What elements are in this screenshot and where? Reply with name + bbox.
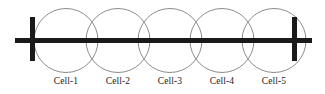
- cell-label-2: Cell-2: [106, 76, 130, 86]
- figure-root: Cell-1Cell-2Cell-3Cell-4Cell-5: [0, 0, 325, 94]
- cell-label-4: Cell-4: [210, 76, 234, 86]
- cell-labels-group: Cell-1Cell-2Cell-3Cell-4Cell-5: [54, 76, 286, 86]
- cellular-coverage-diagram: Cell-1Cell-2Cell-3Cell-4Cell-5: [0, 0, 325, 94]
- cell-label-1: Cell-1: [54, 76, 78, 86]
- road-group: [15, 17, 312, 61]
- cell-label-3: Cell-3: [158, 76, 182, 86]
- cell-label-5: Cell-5: [262, 76, 286, 86]
